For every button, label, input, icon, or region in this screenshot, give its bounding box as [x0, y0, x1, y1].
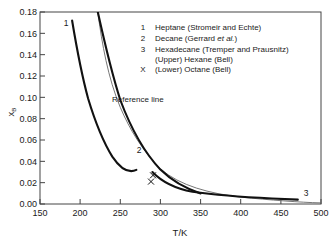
- y-tick-label: 0.14: [19, 50, 37, 60]
- x-tick-label: 250: [113, 208, 128, 218]
- curve-1-label: 1: [64, 18, 69, 28]
- x-tick-label: 400: [233, 208, 248, 218]
- x-tick-label: 500: [313, 208, 328, 218]
- y-tick-label: 0.16: [19, 29, 37, 39]
- y-axis-title-subscript: B: [11, 108, 17, 112]
- curve-3-label: 3: [304, 188, 309, 198]
- y-tick-label: 0.12: [19, 71, 37, 81]
- x-tick-label: 350: [193, 208, 208, 218]
- x-tick-label: 300: [153, 208, 168, 218]
- y-tick-label: 0.02: [19, 178, 37, 188]
- legend-key-3: 3: [141, 45, 146, 54]
- y-tick-label: 0.18: [19, 7, 37, 17]
- curve-2-label: 2: [137, 145, 142, 155]
- x-tick-label: 150: [32, 208, 47, 218]
- y-tick-label: 0.06: [19, 135, 37, 145]
- legend-key-5-x-marker-icon: X: [140, 65, 146, 74]
- legend-label-2-pre: Decane (Gerrard: [155, 34, 217, 43]
- legend-label-2: Decane (Gerrard et al.): [155, 34, 238, 43]
- x-tick-label: 450: [273, 208, 288, 218]
- solubility-chart: 0.00 0.02 0.04 0.06 0.08 0.10 0.12 0.14 …: [0, 0, 335, 249]
- chart-figure: 0.00 0.02 0.04 0.06 0.08 0.10 0.12 0.14 …: [0, 0, 335, 249]
- legend-key-2: 2: [141, 34, 146, 43]
- legend-label-4: (Upper) Hexane (Bell): [155, 55, 233, 64]
- x-axis-title: T/K: [173, 227, 188, 238]
- legend-key-1: 1: [141, 23, 146, 32]
- legend-label-5: (Lower) Octane (Bell): [155, 65, 231, 74]
- legend-label-1: Heptane (Stromeir and Echte): [155, 23, 262, 32]
- legend-label-2-italic: et al.: [217, 34, 234, 43]
- legend-label-3: Hexadecane (Tremper and Prausnitz): [155, 45, 289, 54]
- y-tick-label: 0.04: [19, 157, 37, 167]
- x-tick-label: 200: [73, 208, 88, 218]
- reference-line-annotation: Reference line: [112, 95, 164, 104]
- legend-label-2-post: ): [235, 34, 238, 43]
- y-tick-label: 0.08: [19, 114, 37, 124]
- y-tick-label: 0.10: [19, 93, 37, 103]
